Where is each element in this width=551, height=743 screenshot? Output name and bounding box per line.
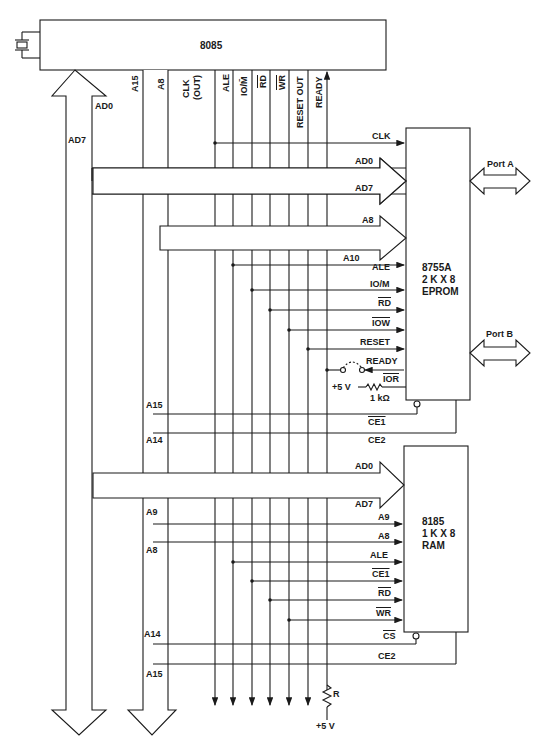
eprom-resistor-label: 1 kΩ (370, 394, 390, 403)
cpu-label: 8085 (200, 40, 222, 52)
ram-name: 8185 (422, 516, 455, 528)
ram-size: 1 K X 8 (422, 528, 455, 540)
eprom-iow-label: IOW (372, 319, 390, 328)
eprom-clk-label: CLK (372, 132, 391, 141)
pullup-r-label: R (333, 690, 340, 699)
ram-ad0-label: AD0 (355, 462, 373, 471)
pin-clk-out: (OUT) (193, 75, 202, 100)
eprom-a8-label: A8 (362, 216, 374, 225)
eprom-ale-label: ALE (372, 263, 390, 272)
ram-a14-left-label: A14 (144, 630, 161, 639)
eprom-ior-label: IOR (383, 375, 399, 384)
ram-a8-label: A8 (378, 532, 390, 541)
eprom-vcc-label: +5 V (332, 383, 351, 392)
pin-a8: A8 (157, 78, 166, 90)
ram-a8-left-label: A8 (146, 546, 158, 555)
eprom-name: 8755A (422, 262, 459, 274)
eprom-ad0-label: AD0 (355, 157, 373, 166)
ram-cs-label: CS (383, 632, 396, 641)
eprom-a14-label: A14 (146, 436, 163, 445)
ram-a9-label: A9 (378, 513, 390, 522)
ram-a9-left-label: A9 (146, 508, 158, 517)
ram-chip-label: 8185 1 K X 8 RAM (422, 516, 455, 552)
pin-clk: CLK (182, 80, 191, 99)
crystal-icon (15, 32, 40, 58)
port-b-label: Port B (486, 330, 513, 339)
pin-iom: IO/M̄ (240, 77, 249, 97)
bus-ad7-label: AD7 (68, 136, 86, 145)
ram-rd-label: RD (378, 589, 391, 598)
pin-ready: READY (315, 76, 324, 108)
eprom-size: 2 K X 8 (422, 274, 459, 286)
ram-type: RAM (422, 540, 455, 552)
schematic-canvas (0, 0, 551, 743)
eprom-a10-label: A10 (343, 254, 360, 263)
ram-ce2-label: CE2 (378, 652, 396, 661)
pin-ale: ALE (222, 74, 231, 92)
pullup-vcc-label: +5 V (316, 722, 335, 731)
eprom-reset-label: RESET (360, 338, 390, 347)
pin-reset-out: RESET OUT (296, 76, 305, 128)
ram-ce1-label: CE1 (372, 570, 390, 579)
eprom-chip-label: 8755A 2 K X 8 EPROM (422, 262, 459, 298)
eprom-a15-label: A15 (146, 401, 163, 410)
eprom-rd-label: RD (378, 299, 391, 308)
eprom-ce1-label: CE1 (368, 418, 386, 427)
eprom-iom-label: IO/M (370, 280, 390, 289)
port-a-label: Port A (487, 160, 514, 169)
pin-rd: RD (259, 75, 268, 88)
eprom-ad7-label: AD7 (355, 184, 373, 193)
pin-wr: WR (278, 75, 287, 90)
pin-a15: A15 (131, 75, 140, 92)
ram-a15-left-label: A15 (146, 670, 163, 679)
eprom-ce2-label: CE2 (368, 436, 386, 445)
ram-wr-label: WR (376, 609, 391, 618)
ram-ale-label: ALE (370, 551, 388, 560)
ram-ad7-label: AD7 (355, 500, 373, 509)
eprom-type: EPROM (422, 286, 459, 298)
bus-ad0-label: AD0 (95, 102, 113, 111)
eprom-ready-label: READY (366, 357, 398, 366)
